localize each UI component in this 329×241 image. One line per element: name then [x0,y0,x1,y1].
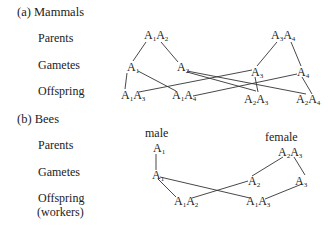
line-p1-g2 [161,42,178,62]
line-g2-o4 [187,71,306,94]
gamete-male-a1: A1 [152,169,164,183]
row-label-parents: Parents [38,139,73,151]
label-female: female [265,131,298,143]
row-label-parents: Parents [38,32,73,44]
gamete-a1: A1 [127,61,139,75]
row-label-gametes: Gametes [38,59,80,71]
gamete-female-a2: A2 [248,175,260,189]
line-p1-g1 [133,42,146,61]
offspring-a1a4: A1A4 [172,89,196,103]
section-heading-bees: (b) Bees [17,113,59,126]
line-g1-o2 [138,71,176,91]
genotype-male-a1: A1 [153,142,165,156]
line-g1-o1 [125,73,127,89]
offspring-a1a3: A1A3 [121,89,145,103]
worker-a1a2: A1A2 [174,195,198,209]
section-heading-mammals: (a) Mammals [17,6,84,19]
genotype-parent-a1a2: A1A2 [144,29,168,43]
gamete-a2: A2 [177,61,189,75]
genotype-parent-a3a4: A3A4 [271,29,295,43]
line-p2-g4 [291,42,301,66]
offspring-a2a3: A2A3 [244,93,268,107]
row-label-offspring: Offspring [38,192,84,204]
line-p2-g3 [257,42,277,66]
gamete-a3: A3 [251,66,263,80]
gamete-female-a3: A3 [295,175,307,189]
genotype-female-a2a3: A2A3 [278,146,302,160]
row-label-offspring: Offspring [38,85,84,97]
row-label-workers: (workers) [37,206,84,218]
line-g2-o3 [187,72,256,91]
gamete-a4: A4 [297,66,309,80]
offspring-a2a4: A2A4 [296,93,320,107]
row-label-gametes: Gametes [38,166,80,178]
label-male: male [145,127,168,139]
worker-a1a3: A1A3 [246,195,270,209]
